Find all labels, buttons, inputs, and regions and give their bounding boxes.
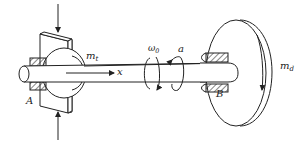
label-point-b: B	[216, 89, 223, 99]
label-point-a: A	[26, 96, 33, 106]
label-md: md	[280, 61, 294, 73]
label-omega: ω0	[148, 44, 159, 54]
shaft-end	[200, 63, 238, 82]
label-mt: mt	[86, 51, 98, 63]
shaft-disk-diagram	[0, 0, 303, 143]
label-x-axis: x	[117, 67, 123, 77]
label-alpha: a	[178, 44, 184, 54]
